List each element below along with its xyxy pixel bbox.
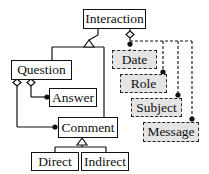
aggregation-diamond-question-answer <box>27 79 35 86</box>
attribute-subject: Subject <box>131 98 182 117</box>
end-dot-comment <box>52 124 57 129</box>
generalization-arrow-interaction <box>84 40 94 47</box>
attribute-message: Message <box>143 122 199 142</box>
attribute-role: Role <box>120 74 167 93</box>
end-dot-subject <box>175 92 180 97</box>
end-dot-message <box>189 116 194 121</box>
class-comment: Comment <box>58 117 118 138</box>
class-direct: Direct <box>31 152 79 171</box>
generalization-arrow-comment <box>77 138 87 145</box>
class-indirect: Indirect <box>81 152 129 171</box>
aggregation-diamond-question-comment <box>13 79 21 86</box>
aggregation-diamond-interaction <box>126 31 134 38</box>
class-interaction: Interaction <box>83 9 146 29</box>
attribute-date: Date <box>112 50 157 69</box>
class-question: Question <box>11 60 72 80</box>
end-dot-date <box>127 41 132 46</box>
class-answer: Answer <box>49 88 97 107</box>
